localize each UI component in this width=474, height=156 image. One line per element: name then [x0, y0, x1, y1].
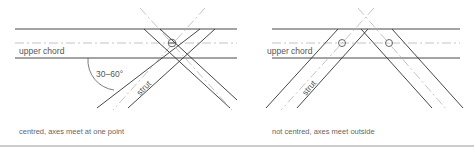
truss-joint-diagram: 30–60° upper chord strut centred, axes m… — [0, 0, 474, 156]
strut-edge — [160, 29, 237, 100]
strut-edge — [361, 29, 432, 108]
strut-edge — [144, 29, 230, 108]
strut-axis — [140, 8, 232, 110]
caption: not centred, axes meet outside — [272, 127, 375, 136]
strut-edge — [266, 29, 338, 108]
strut-label: strut — [134, 78, 153, 97]
panel-not-centred: upper chord strut not centred, axes meet… — [266, 8, 463, 136]
chord-label: upper chord — [267, 46, 313, 56]
strut-axis — [281, 8, 374, 110]
strut-left — [97, 8, 215, 110]
caption: centred, axes meet at one point — [19, 127, 125, 136]
strut-axis — [358, 8, 447, 110]
strut-right — [358, 8, 463, 110]
strut-edge — [392, 29, 463, 108]
strut-right — [140, 8, 237, 110]
panel-centred: 30–60° upper chord strut centred, axes m… — [15, 8, 237, 136]
strut-left — [266, 8, 374, 110]
chord-label: upper chord — [19, 46, 65, 56]
angle-label: 30–60° — [96, 69, 123, 79]
strut-axis — [113, 8, 205, 110]
